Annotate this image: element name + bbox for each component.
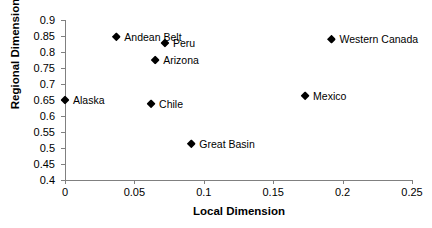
x-tick: 0.05 (134, 180, 135, 184)
y-tick: 0.55 (61, 132, 65, 133)
x-tick: 0.1 (204, 180, 205, 184)
y-tick: 0.75 (61, 68, 65, 69)
data-point-label: Chile (159, 98, 183, 110)
x-tick: 0.2 (343, 180, 344, 184)
data-point-marker[interactable] (327, 35, 336, 44)
y-tick-label: 0.45 (34, 158, 55, 170)
data-point-marker[interactable] (112, 32, 121, 41)
data-point-marker[interactable] (61, 96, 70, 105)
data-point-marker[interactable] (301, 91, 310, 100)
y-tick-label: 0.65 (34, 94, 55, 106)
y-tick: 0.85 (61, 36, 65, 37)
y-axis-title: Regional Dimension (9, 0, 21, 127)
data-point-marker[interactable] (187, 139, 196, 148)
x-tick-label: 0.2 (335, 186, 350, 198)
y-tick: 0.8 (61, 52, 65, 53)
data-point-label: Mexico (313, 90, 346, 102)
x-tick-label: 0.15 (262, 186, 283, 198)
data-point-label: Great Basin (199, 138, 254, 150)
data-point-label: Peru (173, 37, 195, 49)
y-tick: 0.6 (61, 116, 65, 117)
data-point-label: Arizona (163, 54, 199, 66)
x-axis-title: Local Dimension (65, 205, 413, 217)
y-tick-label: 0.85 (34, 30, 55, 42)
y-tick-label: 0.5 (40, 142, 55, 154)
data-point-marker[interactable] (151, 56, 160, 65)
data-point-label: Western Canada (339, 33, 418, 45)
y-tick-label: 0.7 (40, 78, 55, 90)
y-tick: 0.9 (61, 20, 65, 21)
data-point-label: Alaska (73, 94, 105, 106)
y-tick-label: 0.4 (40, 174, 55, 186)
y-tick-label: 0.75 (34, 62, 55, 74)
y-tick: 0.7 (61, 84, 65, 85)
x-tick-label: 0 (62, 186, 68, 198)
y-tick-label: 0.55 (34, 126, 55, 138)
y-tick-label: 0.6 (40, 110, 55, 122)
y-tick-label: 0.8 (40, 46, 55, 58)
x-tick: 0.15 (273, 180, 274, 184)
data-point-marker[interactable] (147, 99, 156, 108)
y-tick: 0.5 (61, 148, 65, 149)
x-axis-line (65, 180, 413, 181)
y-tick: 0.45 (61, 164, 65, 165)
x-tick-label: 0.1 (196, 186, 211, 198)
x-tick: 0.25 (412, 180, 413, 184)
scatter-plot-figure: 0.40.450.50.550.60.650.70.750.80.850.9 0… (0, 0, 432, 228)
x-tick-label: 0.25 (401, 186, 422, 198)
plot-area: 0.40.450.50.550.60.650.70.750.80.850.9 0… (65, 20, 412, 180)
x-tick-label: 0.05 (124, 186, 145, 198)
y-tick-label: 0.9 (40, 14, 55, 26)
x-tick: 0 (65, 180, 66, 184)
